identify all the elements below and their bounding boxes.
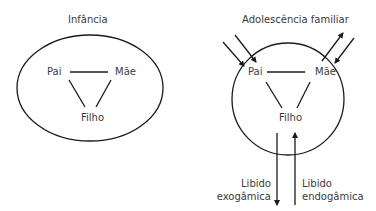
infancia-title: Infância bbox=[68, 14, 108, 26]
node-filho: Filho bbox=[81, 112, 104, 124]
mae-incoming-arrow bbox=[335, 38, 354, 63]
node-mae: Mãe bbox=[315, 66, 336, 78]
pai-incoming-arrow-2 bbox=[235, 35, 256, 62]
family-boundary-ellipse bbox=[17, 35, 163, 141]
family-boundary-circle bbox=[232, 43, 344, 155]
node-pai: Pai bbox=[47, 66, 62, 78]
node-mae: Mãe bbox=[115, 66, 136, 78]
infancia-diagram bbox=[17, 35, 163, 141]
pai-filho-link bbox=[69, 80, 85, 107]
node-filho: Filho bbox=[279, 112, 302, 124]
mae-filho-link bbox=[297, 82, 310, 108]
libido-exogamica-label-line1: Libido bbox=[241, 178, 271, 190]
pai-filho-link bbox=[266, 82, 282, 108]
libido-endogamica-label-line2: endogâmica bbox=[302, 191, 364, 203]
node-pai: Pai bbox=[248, 66, 263, 78]
libido-exogamica-label-line2: exogâmica bbox=[215, 191, 271, 203]
libido-endogamica-label-line1: Libido bbox=[302, 178, 332, 190]
pai-incoming-arrow-1 bbox=[223, 42, 244, 66]
mae-filho-link bbox=[96, 80, 111, 107]
adolescencia-title: Adolescência familiar bbox=[242, 14, 349, 26]
